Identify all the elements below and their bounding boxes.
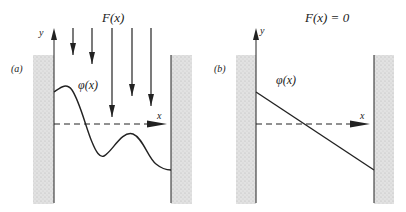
force-arrowhead (129, 84, 135, 96)
panel-b: y x F(x) = 0 (b) φ(x) (214, 10, 394, 204)
x-axis-arrowhead (147, 121, 167, 128)
phi-line (256, 92, 374, 170)
left-wall (236, 55, 256, 204)
force-arrowhead (109, 105, 115, 117)
x-axis-label: x (359, 110, 365, 121)
right-wall (171, 55, 192, 204)
diagram: y x F(x) (a) φ(x) y x F(x (0, 0, 406, 212)
curve-label: φ(x) (78, 78, 98, 92)
force-arrowhead (89, 52, 95, 64)
x-axis-label: x (156, 110, 162, 121)
right-wall (374, 55, 394, 204)
left-wall (33, 55, 54, 204)
curve-label: φ(x) (276, 73, 296, 87)
panel-label: (a) (11, 63, 23, 75)
y-axis-arrowhead (253, 28, 259, 40)
y-axis-label: y (38, 27, 44, 38)
force-arrowhead (70, 43, 76, 55)
y-axis-arrowhead (51, 28, 57, 40)
panel-label: (b) (214, 63, 226, 75)
force-arrows (70, 28, 154, 117)
force-label: F(x) (101, 10, 124, 25)
panel-a: y x F(x) (a) φ(x) (11, 10, 192, 204)
y-axis-label: y (259, 25, 265, 36)
force-arrowhead (148, 94, 154, 106)
x-axis-arrowhead (350, 121, 370, 128)
force-label: F(x) = 0 (304, 10, 350, 25)
